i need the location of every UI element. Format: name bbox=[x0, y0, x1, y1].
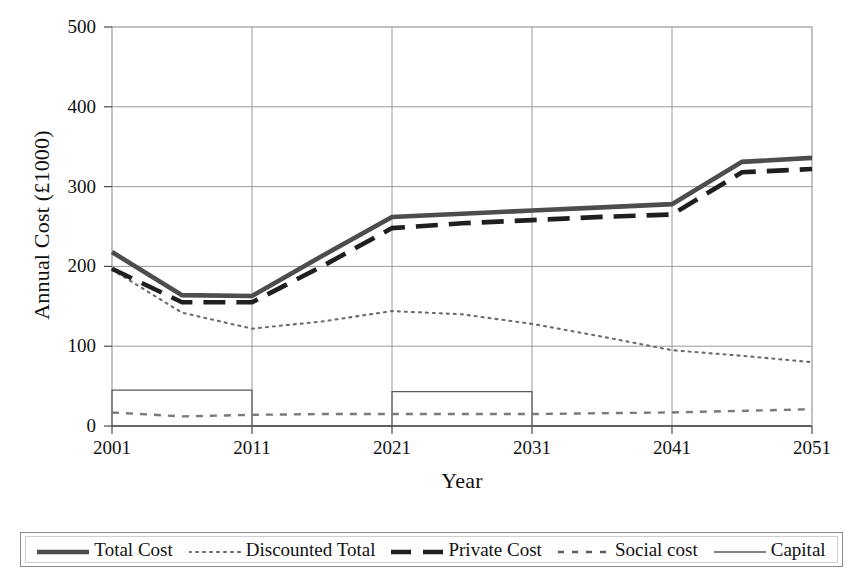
legend-label-social-cost: Social cost bbox=[615, 539, 698, 561]
legend-entry-capital: Capital bbox=[714, 539, 826, 561]
plot-canvas bbox=[0, 0, 855, 585]
legend-swatch-fine-dotted-icon bbox=[189, 544, 241, 556]
x-tick-label-2041: 2041 bbox=[632, 437, 712, 459]
y-tick-label-0: 0 bbox=[16, 415, 96, 437]
legend-swatch-thick-dashed-icon bbox=[391, 544, 443, 556]
legend-swatch-thin-solid-icon bbox=[714, 544, 766, 556]
legend-label-total-cost: Total Cost bbox=[94, 539, 172, 561]
plot-area-border bbox=[112, 27, 812, 426]
legend-swatch-dash-dot-icon bbox=[558, 544, 610, 556]
legend-entry-social-cost: Social cost bbox=[558, 539, 714, 561]
legend-entry-private-cost: Private Cost bbox=[391, 539, 557, 561]
y-tick-label-100: 100 bbox=[16, 335, 96, 357]
legend-label-capital: Capital bbox=[771, 539, 826, 561]
x-tick-label-2001: 2001 bbox=[72, 437, 152, 459]
x-axis-ticks bbox=[112, 426, 812, 434]
x-axis-title: Year bbox=[112, 468, 812, 494]
x-tick-label-2011: 2011 bbox=[212, 437, 292, 459]
y-axis-ticks bbox=[104, 27, 112, 426]
legend-label-private-cost: Private Cost bbox=[448, 539, 541, 561]
chart-legend: Total Cost Discounted Total Private Cost… bbox=[20, 532, 843, 567]
y-tick-label-300: 300 bbox=[16, 176, 96, 198]
legend-label-discounted-total: Discounted Total bbox=[246, 539, 376, 561]
annual-cost-line-chart: Annual Cost (£1000) 500 400 300 200 100 … bbox=[0, 0, 855, 585]
y-tick-label-200: 200 bbox=[16, 255, 96, 277]
x-tick-label-2031: 2031 bbox=[492, 437, 572, 459]
x-tick-label-2051: 2051 bbox=[772, 437, 852, 459]
legend-entry-discounted-total: Discounted Total bbox=[189, 539, 392, 561]
y-axis-title: Annual Cost (£1000) bbox=[29, 25, 55, 425]
legend-swatch-thick-solid-icon bbox=[37, 544, 89, 556]
legend-inner-border: Total Cost Discounted Total Private Cost… bbox=[25, 536, 838, 563]
y-tick-label-400: 400 bbox=[16, 96, 96, 118]
legend-entry-total-cost: Total Cost bbox=[37, 539, 188, 561]
x-tick-label-2021: 2021 bbox=[352, 437, 432, 459]
y-tick-label-500: 500 bbox=[16, 16, 96, 38]
